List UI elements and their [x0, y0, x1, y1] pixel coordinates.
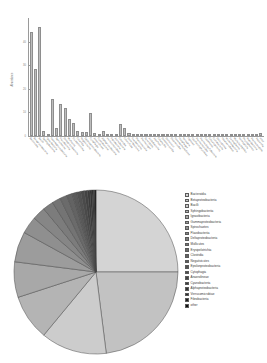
legend-label: Spirochaetes: [191, 226, 209, 229]
bar: [213, 134, 216, 136]
bar-chart-panel: Abundance 010203040 BacteroidiaBetaprote…: [0, 0, 267, 182]
y-tick-mark: [28, 136, 30, 137]
legend-label: Sphingobacteriia: [191, 210, 214, 213]
bar: [149, 134, 152, 136]
bar: [144, 134, 147, 136]
figure-root: Abundance 010203040 BacteroidiaBetaprote…: [0, 0, 267, 363]
y-tick-mark: [28, 42, 30, 43]
bar: [30, 32, 33, 136]
pie-legend: BacteroidiaBetaproteobacteriaBacilliSphi…: [185, 192, 265, 308]
legend-swatch: [185, 282, 189, 286]
pie-chart: [12, 188, 180, 356]
legend-item: other: [185, 303, 265, 309]
y-tick-label: 20: [23, 87, 26, 90]
legend-label: Alphaproteobacteria: [191, 287, 218, 290]
legend-swatch: [185, 243, 189, 247]
bar: [183, 134, 186, 136]
legend-swatch: [185, 210, 189, 214]
legend-swatch: [185, 254, 189, 258]
bar: [200, 134, 203, 136]
bar: [127, 133, 130, 136]
bar: [196, 134, 199, 136]
y-tick-label: 10: [23, 111, 26, 114]
bar: [166, 134, 169, 136]
bar-series: [29, 18, 263, 136]
legend-label: Cytophagia: [191, 271, 206, 274]
bar: [51, 99, 54, 136]
bar: [68, 119, 71, 136]
bar: [191, 134, 194, 136]
legend-swatch: [185, 271, 189, 275]
bar: [119, 124, 122, 136]
legend-label: Flavobacteriia: [191, 232, 210, 235]
legend-swatch: [185, 221, 189, 225]
legend-label: other: [191, 304, 198, 307]
pie-chart-panel: BacteroidiaBetaproteobacteriaBacilliSphi…: [0, 182, 267, 363]
bar: [47, 134, 50, 136]
legend-label: Verrucomicrobiae: [191, 293, 215, 296]
y-tick-mark: [28, 112, 30, 113]
bar-y-tick-labels: 010203040: [14, 18, 28, 136]
legend-swatch: [185, 265, 189, 269]
bar: [89, 113, 92, 136]
bar: [98, 134, 101, 136]
bar: [123, 128, 126, 136]
legend-swatch: [185, 304, 189, 308]
bar: [217, 134, 220, 136]
legend-label: Bacteroidia: [191, 193, 206, 196]
pie-slice: [96, 272, 178, 353]
bar: [76, 131, 79, 136]
legend-swatch: [185, 298, 189, 302]
bar: [234, 134, 237, 136]
legend-label: Gammaproteobacteria: [191, 221, 221, 224]
bar: [251, 134, 254, 136]
legend-label: Betaproteobacteria: [191, 199, 217, 202]
legend-label: Ignavibacteria: [191, 215, 210, 218]
legend-swatch: [185, 237, 189, 241]
bar: [161, 134, 164, 136]
legend-swatch: [185, 293, 189, 297]
legend-label: Negativicutes: [191, 260, 209, 263]
bar: [85, 132, 88, 136]
legend-swatch: [185, 260, 189, 264]
bar: [72, 123, 75, 136]
y-tick-label: 40: [23, 40, 26, 43]
y-tick-mark: [28, 89, 30, 90]
bar-x-tick-labels: BacteroidiaBetaproteobacteriaBacilliSphi…: [22, 137, 267, 181]
legend-label: Bacilli: [191, 204, 199, 207]
y-tick-label: 30: [23, 64, 26, 67]
legend-swatch: [185, 215, 189, 219]
y-tick-mark: [28, 65, 30, 66]
bar: [38, 27, 41, 136]
bar: [34, 69, 37, 136]
legend-swatch: [185, 226, 189, 230]
legend-label: Fibrobacteria: [191, 298, 209, 301]
pie-slice: [96, 190, 178, 272]
bar: [230, 134, 233, 136]
legend-label: Cyanobacteria: [191, 282, 211, 285]
legend-label: Anaerolineae: [191, 276, 209, 279]
bar: [174, 134, 177, 136]
bar: [208, 134, 211, 136]
bar: [102, 131, 105, 136]
legend-swatch: [185, 232, 189, 236]
legend-swatch: [185, 193, 189, 197]
legend-label: Mollicutes: [191, 243, 205, 246]
bar: [225, 134, 228, 136]
pie-svg: [12, 188, 180, 356]
legend-swatch: [185, 248, 189, 252]
bar: [157, 134, 160, 136]
bar: [42, 131, 45, 136]
bar: [179, 134, 182, 136]
bar: [259, 133, 262, 136]
legend-label: Clostridia: [191, 254, 204, 257]
bar: [115, 134, 118, 136]
bar: [81, 132, 84, 136]
legend-label: Deltaproteobacteria: [191, 237, 218, 240]
legend-swatch: [185, 204, 189, 208]
legend-label: Epsilonproteobacteria: [191, 265, 221, 268]
legend-label: Erysipelotrichia: [191, 249, 212, 252]
bar: [110, 134, 113, 136]
legend-swatch: [185, 276, 189, 280]
bar: [132, 134, 135, 136]
